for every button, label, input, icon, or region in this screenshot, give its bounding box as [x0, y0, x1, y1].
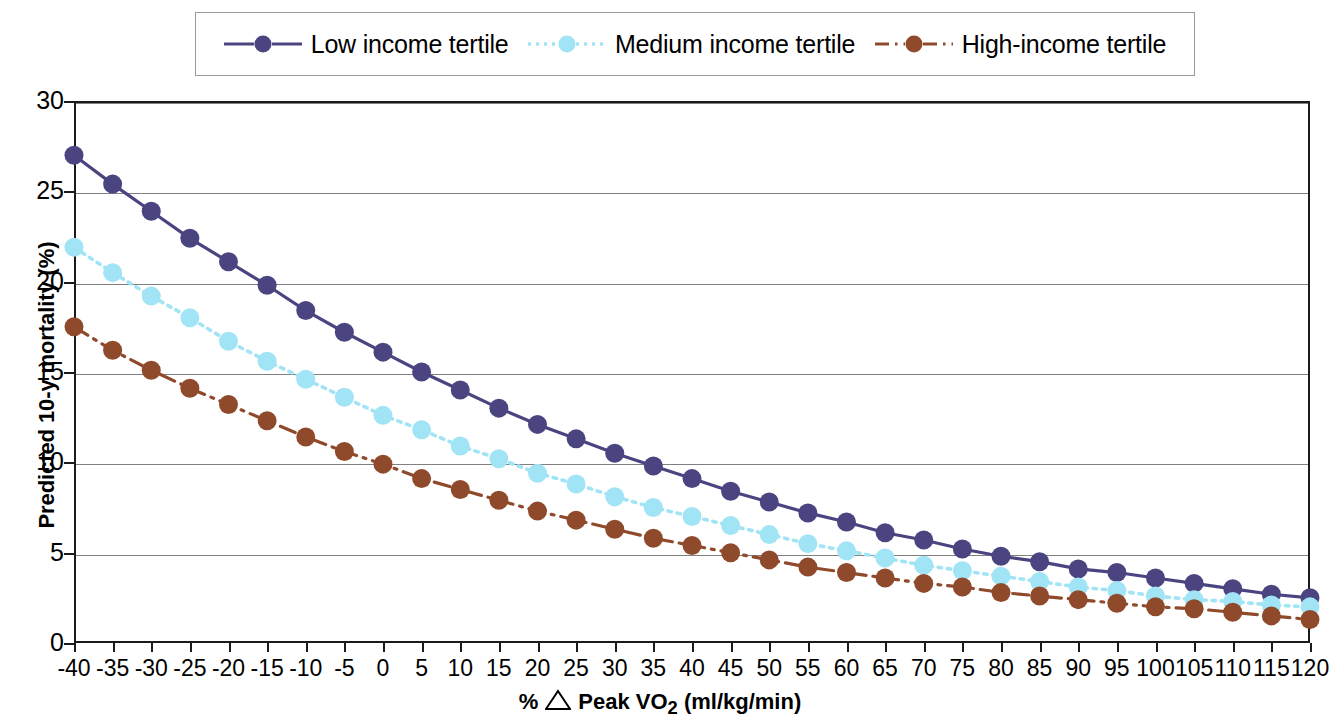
- x-axis-tick: [808, 643, 810, 652]
- data-point-marker: [1030, 552, 1049, 571]
- x-axis-tick: [615, 643, 617, 652]
- data-point-marker: [914, 556, 933, 575]
- data-point-marker: [489, 399, 508, 418]
- data-point-marker: [219, 332, 238, 351]
- data-point-marker: [296, 301, 315, 320]
- data-point-marker: [142, 361, 161, 380]
- y-axis-tick: [64, 462, 74, 464]
- data-point-marker: [374, 343, 393, 362]
- data-point-marker: [180, 229, 199, 248]
- x-axis-tick: [113, 643, 115, 652]
- x-axis-tick: [460, 643, 462, 652]
- x-axis-title-subscript: 2: [668, 697, 678, 718]
- x-axis-title-percent: %: [519, 689, 539, 714]
- data-point-marker: [1069, 559, 1088, 578]
- data-point-marker: [1146, 568, 1165, 587]
- data-point-marker: [103, 175, 122, 194]
- data-point-marker: [837, 541, 856, 560]
- data-point-marker: [760, 493, 779, 512]
- x-axis-title-units: (ml/kg/min): [684, 689, 801, 714]
- y-axis-tick: [64, 372, 74, 374]
- data-point-marker: [1185, 574, 1204, 593]
- data-point-marker: [992, 583, 1011, 602]
- data-point-marker: [528, 464, 547, 483]
- chart-series: [65, 238, 1320, 617]
- data-point-marker: [412, 363, 431, 382]
- x-axis-tick: [576, 643, 578, 652]
- data-point-marker: [65, 238, 84, 257]
- data-point-marker: [605, 444, 624, 463]
- x-axis-tick: [267, 643, 269, 652]
- data-point-marker: [451, 381, 470, 400]
- data-point-marker: [683, 507, 702, 526]
- data-point-marker: [335, 442, 354, 461]
- data-point-marker: [258, 276, 277, 295]
- x-axis-tick: [306, 643, 308, 652]
- data-point-marker: [605, 487, 624, 506]
- x-axis-tick: [1233, 643, 1235, 652]
- data-point-marker: [1030, 587, 1049, 606]
- y-axis-tick-label: 0: [24, 630, 64, 655]
- y-axis-tick-label: 25: [24, 178, 64, 203]
- delta-triangle-icon: [545, 689, 571, 717]
- x-axis-tick: [538, 643, 540, 652]
- y-axis-tick: [64, 553, 74, 555]
- data-point-marker: [876, 568, 895, 587]
- data-point-marker: [1107, 563, 1126, 582]
- x-axis-tick: [653, 643, 655, 652]
- data-point-marker: [721, 482, 740, 501]
- data-point-marker: [335, 323, 354, 342]
- data-point-marker: [65, 317, 84, 336]
- data-point-marker: [876, 523, 895, 542]
- data-point-marker: [798, 503, 817, 522]
- data-point-marker: [258, 411, 277, 430]
- x-axis-tick: [769, 643, 771, 652]
- data-point-marker: [953, 540, 972, 559]
- x-axis-tick: [190, 643, 192, 652]
- data-point-marker: [837, 512, 856, 531]
- data-point-marker: [451, 480, 470, 499]
- data-point-marker: [258, 352, 277, 371]
- x-axis-tick: [344, 643, 346, 652]
- data-point-marker: [528, 415, 547, 434]
- data-point-marker: [644, 529, 663, 548]
- data-point-marker: [683, 469, 702, 488]
- data-point-marker: [914, 531, 933, 550]
- data-point-marker: [1301, 610, 1320, 629]
- data-point-marker: [760, 550, 779, 569]
- y-axis-tick-label: 5: [24, 540, 64, 565]
- data-point-marker: [721, 516, 740, 535]
- y-axis-tick-label: 30: [24, 88, 64, 113]
- data-point-marker: [374, 406, 393, 425]
- data-point-marker: [219, 395, 238, 414]
- data-point-marker: [180, 379, 199, 398]
- x-axis-tick: [1040, 643, 1042, 652]
- data-point-marker: [142, 202, 161, 221]
- data-point-marker: [798, 534, 817, 553]
- data-point-marker: [103, 263, 122, 282]
- x-axis-title: %Peak VO2 (ml/kg/min): [0, 689, 1320, 719]
- x-axis-tick: [924, 643, 926, 652]
- x-axis-tick: [151, 643, 153, 652]
- data-point-marker: [489, 491, 508, 510]
- y-axis-tick: [64, 101, 74, 103]
- x-axis-tick: [1156, 643, 1158, 652]
- data-point-marker: [1223, 603, 1242, 622]
- data-point-marker: [296, 428, 315, 447]
- x-axis-tick: [847, 643, 849, 652]
- x-axis-tick: [74, 643, 76, 652]
- x-axis-tick: [1001, 643, 1003, 652]
- data-point-marker: [412, 420, 431, 439]
- y-axis-title: Predicted 10-y mortality (%): [34, 175, 60, 595]
- x-axis-tick: [229, 643, 231, 652]
- data-point-marker: [953, 561, 972, 580]
- data-point-marker: [760, 525, 779, 544]
- x-axis-tick: [1271, 643, 1273, 652]
- data-point-marker: [1146, 597, 1165, 616]
- data-point-marker: [296, 370, 315, 389]
- data-point-marker: [953, 577, 972, 596]
- data-point-marker: [567, 475, 586, 494]
- data-point-marker: [914, 574, 933, 593]
- data-point-marker: [644, 498, 663, 517]
- y-axis-tick-label: 15: [24, 359, 64, 384]
